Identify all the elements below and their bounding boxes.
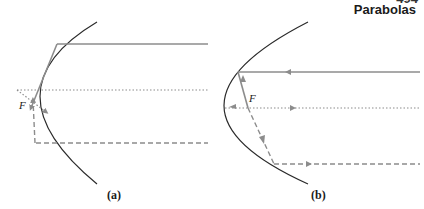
focus-label-a: F <box>18 99 26 111</box>
figure-b: F <box>224 22 420 184</box>
caption-b: (b) <box>311 188 326 203</box>
dashed-ray-vertical-a <box>33 100 35 143</box>
focus-label-b: F <box>248 92 256 104</box>
dashed-arrow-down-b <box>259 135 265 144</box>
solid-ray-reflected-a <box>31 44 57 108</box>
solid-arrow-b <box>285 69 291 75</box>
parabola-curve-a <box>40 22 97 184</box>
dashed-ray-reflected-b <box>248 108 274 164</box>
figure-a: F <box>17 22 208 184</box>
solid-arrow-up-b <box>240 75 246 82</box>
parabola-diagrams: F F <box>0 0 424 209</box>
dashed-arrow-b <box>306 161 312 167</box>
parabola-curve-b <box>224 22 308 184</box>
dotted-arrow-b <box>290 105 296 111</box>
caption-a: (a) <box>107 188 121 203</box>
